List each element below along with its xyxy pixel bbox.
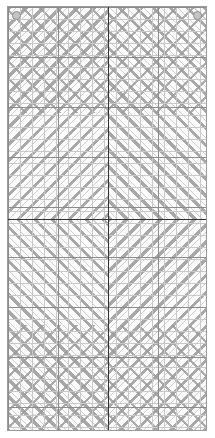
- page-title: Twill Weave Draft Pattern: [0, 21, 1, 22]
- registration-mark-top-right-icon: [193, 11, 202, 20]
- axis-horizontal: [8, 219, 206, 220]
- registration-mark-top-left-icon: [12, 11, 21, 20]
- pattern-sheet: Twill Weave Draft Pattern Quadrant TL Qu…: [0, 0, 215, 438]
- pattern-frame: Quadrant TL Quadrant TR Quadrant BL Quad…: [7, 6, 207, 431]
